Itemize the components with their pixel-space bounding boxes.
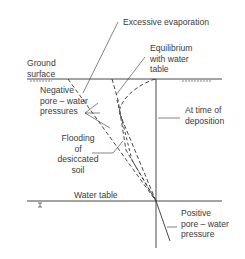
positive-pressure-line bbox=[156, 201, 170, 241]
label-equilibrium: Equilibrium with water table bbox=[150, 43, 193, 75]
leader-equilibrium bbox=[116, 57, 145, 95]
leader-negative bbox=[85, 103, 110, 128]
label-excessive-evaporation: Excessive evaporation bbox=[123, 17, 209, 28]
pore-pressure-diagram: Excessive evaporation Equilibrium with w… bbox=[0, 0, 245, 259]
label-negative-pore-pressure: Negative pore – water pressures bbox=[40, 85, 88, 117]
flooding-curve bbox=[112, 79, 156, 201]
label-ground-surface: Ground surface bbox=[27, 58, 56, 79]
label-flooding: Flooding of desiccated soil bbox=[53, 133, 103, 175]
label-positive-pore-pressure: Positive pore – water pressure bbox=[181, 208, 229, 240]
label-at-time-of-deposition: At time of deposition bbox=[185, 105, 224, 126]
label-water-table: Water table bbox=[74, 190, 118, 201]
